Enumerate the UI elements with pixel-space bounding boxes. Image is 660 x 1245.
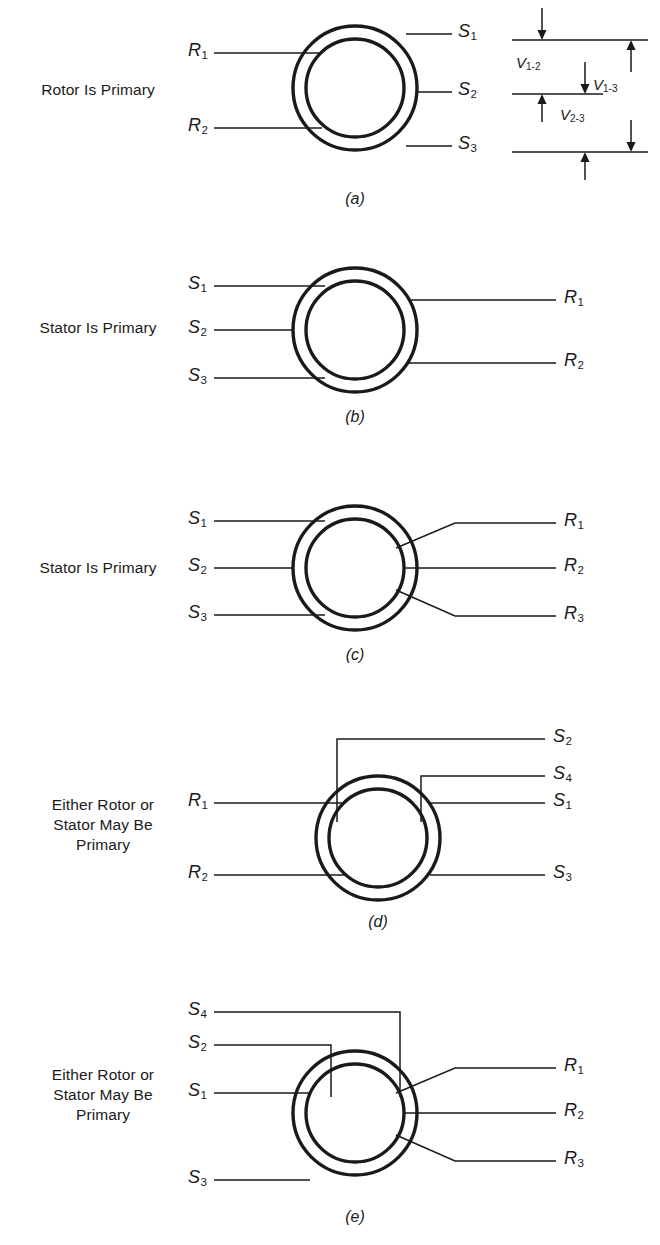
lead-S2-d [337, 739, 545, 822]
panel-b: Stator Is Primary S1 S2 S3 R1 R2 (b) [0, 240, 660, 440]
lead-R1-c [396, 523, 556, 548]
panel-a: Rotor Is Primary R1 R2 S1 S2 S3 [0, 0, 660, 225]
stator-ring-outer-c [293, 506, 417, 630]
terminal-label-R2-b: R2 [564, 350, 584, 371]
voltage-label-V1-2: V1-2 [516, 54, 540, 72]
terminal-label-R1-d: R1 [188, 790, 208, 811]
terminal-label-S1-e: S1 [188, 1080, 207, 1101]
terminal-label-S2-e: S2 [188, 1032, 207, 1053]
lead-R3-c [396, 590, 556, 616]
terminal-label-S3-e: S3 [188, 1167, 207, 1188]
panel-e-graphic [0, 965, 660, 1245]
arrow-V2-3 [581, 62, 590, 94]
rotor-circle-e [306, 1064, 404, 1162]
stator-ring-outer-e [293, 1051, 417, 1175]
terminal-label-S3-c: S3 [188, 602, 207, 623]
terminal-label-S3-d: S3 [553, 862, 572, 883]
arrow-V1-2 [538, 8, 547, 40]
panel-d-caption: (d) [348, 913, 408, 931]
panel-e-caption: (e) [325, 1208, 385, 1226]
voltage-label-V1-3: V1-3 [593, 76, 617, 94]
terminal-label-R3-c: R3 [564, 603, 584, 624]
terminal-label-R2-e: R2 [564, 1100, 584, 1121]
terminal-label-S3-b: S3 [188, 365, 207, 386]
arrow-V2-3-lower [581, 152, 590, 180]
terminal-label-S2-b: S2 [188, 317, 207, 338]
panel-c-caption: (c) [325, 646, 385, 664]
terminal-label-R2-c: R2 [564, 555, 584, 576]
panel-b-caption: (b) [325, 408, 385, 426]
lead-R1-e [396, 1068, 556, 1093]
panel-d: Either Rotor or Stator May Be Primary R1… [0, 700, 660, 945]
panel-a-caption: (a) [325, 190, 385, 208]
panel-e: Either Rotor or Stator May Be Primary S4… [0, 965, 660, 1245]
lead-S4-d [421, 776, 545, 822]
arrow-V1-3-lower [627, 120, 636, 152]
arrow-V1-2-lower [538, 94, 547, 122]
voltage-label-V2-3: V2-3 [560, 106, 584, 124]
panel-c: Stator Is Primary S1 S2 S3 R1 R2 R3 (c) [0, 468, 660, 678]
rotor-circle-b [306, 281, 404, 379]
terminal-label-S1-d: S1 [553, 790, 572, 811]
terminal-label-R3-e: R3 [564, 1148, 584, 1169]
terminal-label-R1-c: R1 [564, 510, 584, 531]
terminal-label-S1-c: S1 [188, 508, 207, 529]
arrow-V1-3-upper [627, 40, 636, 72]
terminal-label-R2-d: R2 [188, 862, 208, 883]
terminal-label-S2-c: S2 [188, 555, 207, 576]
terminal-label-S2-d: S2 [553, 726, 572, 747]
terminal-label-S1-b: S1 [188, 273, 207, 294]
rotor-circle-c [306, 519, 404, 617]
terminal-label-R1-e: R1 [564, 1055, 584, 1076]
terminal-label-S4-d: S4 [553, 763, 572, 784]
terminal-label-S4-e: S4 [188, 999, 207, 1020]
lead-R3-e [396, 1135, 556, 1161]
terminal-label-R1-b: R1 [564, 287, 584, 308]
